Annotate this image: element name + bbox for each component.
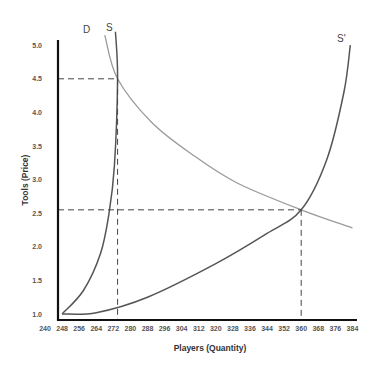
x-tick-label: 336 [244,325,256,332]
equilibrium-guides [58,79,301,320]
y-tick-label: 1.5 [32,277,42,284]
demand-curve-label: D [83,24,90,35]
supply-prime-curve [62,45,350,314]
y-tick-label: 3.0 [32,176,42,183]
x-tick-label: 368 [312,325,324,332]
y-axis-ticks: 1.01.52.02.53.03.54.04.55.0 [32,42,42,318]
x-tick-label: 272 [107,325,119,332]
x-tick-label: 304 [176,325,188,332]
x-tick-label: 328 [227,325,239,332]
x-tick-label: 344 [261,325,273,332]
x-tick-label: 376 [330,325,342,332]
x-tick-label: 352 [278,325,290,332]
x-tick-label: 240 [39,325,51,332]
y-tick-label: 1.0 [32,311,42,318]
x-tick-label: 384 [347,325,359,332]
y-tick-label: 4.0 [32,109,42,116]
x-axis-ticks: 2402482562642722802882963043123203283363… [39,325,358,332]
y-tick-label: 2.0 [32,243,42,250]
x-tick-label: 280 [125,325,137,332]
y-tick-label: 3.5 [32,143,42,150]
x-tick-label: 256 [73,325,85,332]
y-tick-label: 4.5 [32,75,42,82]
y-tick-label: 2.5 [32,210,42,217]
x-tick-label: 320 [210,325,222,332]
supply-prime-curve-label: S' [337,33,346,44]
x-axis-title: Players (Quantity) [174,343,247,353]
y-axis-title: Tools (Price) [20,154,30,205]
demand-curve [105,35,353,228]
x-tick-label: 296 [159,325,171,332]
supply-curve-label: S [106,22,113,33]
x-tick-label: 360 [295,325,307,332]
supply-demand-chart: 2402482562642722802882963043123203283363… [0,0,380,368]
y-tick-label: 5.0 [32,42,42,49]
x-tick-label: 264 [90,325,102,332]
x-tick-label: 312 [193,325,205,332]
curves [62,32,352,315]
x-tick-label: 288 [142,325,154,332]
supply-curve [62,32,118,314]
x-tick-label: 248 [56,325,68,332]
